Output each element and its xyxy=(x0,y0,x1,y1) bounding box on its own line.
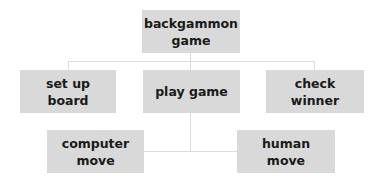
connector-level1-horizontal xyxy=(68,61,315,62)
node-label: check winner xyxy=(270,75,360,109)
node-computer-move: computer move xyxy=(47,130,144,173)
node-label: play game xyxy=(155,83,228,100)
node-label-line-1: human xyxy=(262,135,310,152)
node-check-winner: check winner xyxy=(266,70,364,113)
connector-play-vertical-down xyxy=(190,113,191,152)
node-play-game: play game xyxy=(143,70,240,113)
connector-setup-vertical xyxy=(68,61,69,70)
node-label-line-2: game xyxy=(144,32,238,49)
connector-level2-horizontal xyxy=(144,151,237,152)
node-label-line-2: move xyxy=(62,152,130,169)
connector-check-vertical xyxy=(314,61,315,70)
node-label-line-2: move xyxy=(262,152,310,169)
node-label-line-1: backgammon xyxy=(144,15,238,32)
node-label: set up board xyxy=(24,75,112,109)
node-label-line-1: computer xyxy=(62,135,130,152)
connector-play-vertical-top xyxy=(190,61,191,70)
node-set-up-board: set up board xyxy=(20,70,116,113)
node-backgammon-game: backgammon game xyxy=(142,10,240,53)
node-human-move: human move xyxy=(237,130,335,173)
